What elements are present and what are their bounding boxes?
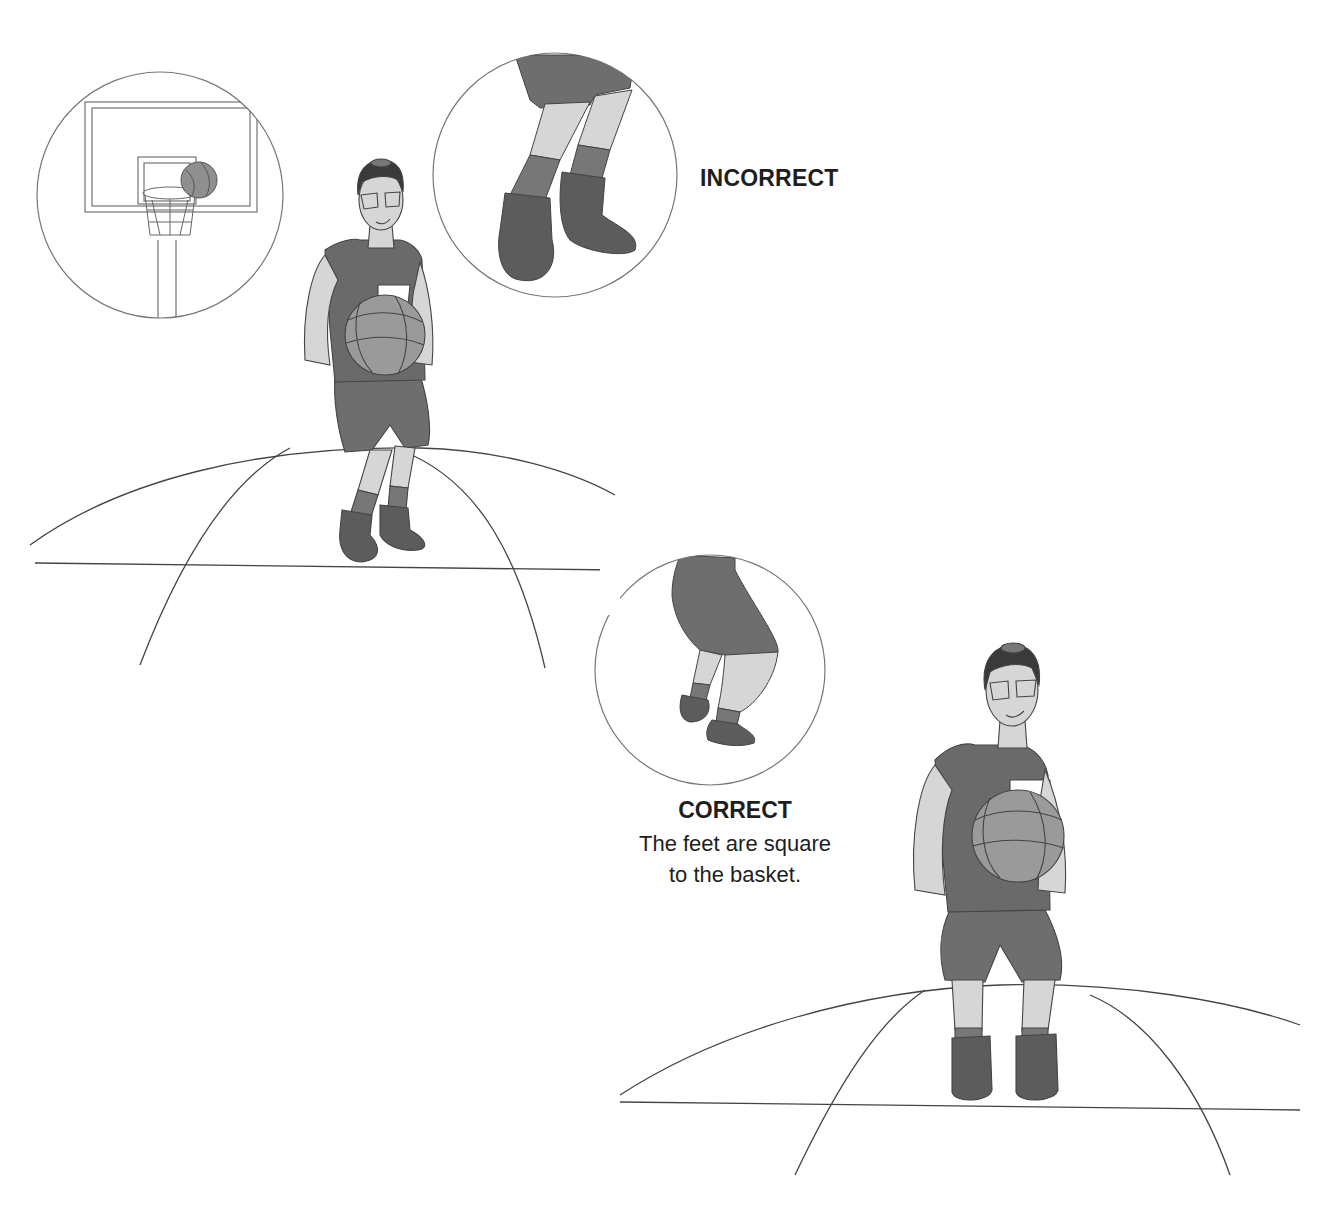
basket-inset xyxy=(37,72,283,330)
player-incorrect-stance xyxy=(304,159,432,562)
correct-description-line1: The feet are square xyxy=(630,828,840,859)
court-lines-top xyxy=(30,448,615,668)
correct-feet-inset xyxy=(595,555,825,785)
correct-label: CORRECT xyxy=(630,797,840,824)
cropped-caption-fragment xyxy=(0,0,700,6)
correct-caption: CORRECT The feet are square to the baske… xyxy=(630,797,840,890)
incorrect-label: INCORRECT xyxy=(700,165,839,192)
basketball-icon xyxy=(181,162,217,198)
shooting-stance-illustration xyxy=(0,0,1328,1219)
player-correct-stance xyxy=(914,643,1066,1100)
incorrect-feet-inset xyxy=(433,53,677,297)
correct-description-line2: to the basket. xyxy=(630,859,840,890)
